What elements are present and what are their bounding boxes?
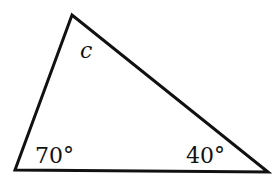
angle-label-c: c: [80, 38, 92, 63]
angle-label-70: 70°: [35, 143, 74, 168]
triangle-diagram: c 70° 40°: [0, 0, 280, 192]
angle-label-40: 40°: [186, 143, 225, 168]
